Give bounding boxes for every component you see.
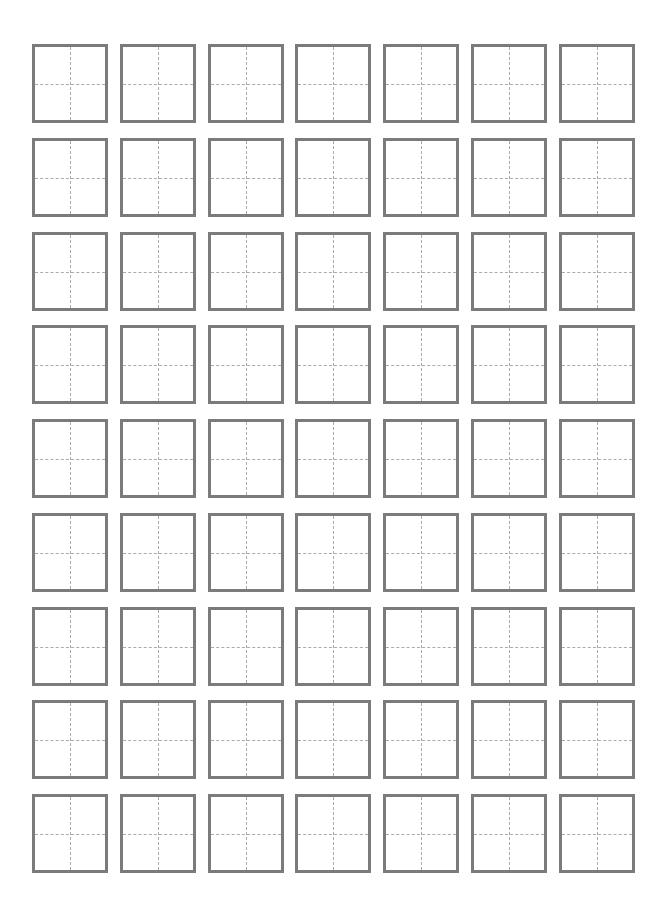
practice-cell [295,232,371,311]
horizontal-guide-line [123,647,193,648]
practice-cell [471,232,547,311]
practice-cell [383,607,459,686]
practice-cell [471,607,547,686]
horizontal-guide-line [474,553,544,554]
horizontal-guide-line [298,553,368,554]
horizontal-guide-line [35,365,105,366]
practice-cell [383,44,459,123]
practice-cell [32,513,108,592]
practice-cell [559,513,635,592]
horizontal-guide-line [562,272,632,273]
horizontal-guide-line [474,647,544,648]
horizontal-guide-line [474,84,544,85]
practice-cell [32,232,108,311]
practice-cell [208,794,284,873]
horizontal-guide-line [123,834,193,835]
horizontal-guide-line [35,553,105,554]
horizontal-guide-line [386,834,456,835]
practice-cell [295,700,371,779]
practice-cell [295,513,371,592]
horizontal-guide-line [298,740,368,741]
practice-sheet [0,0,668,908]
practice-cell [471,419,547,498]
practice-cell [295,325,371,404]
horizontal-guide-line [35,740,105,741]
horizontal-guide-line [562,365,632,366]
practice-cell [32,607,108,686]
horizontal-guide-line [386,365,456,366]
horizontal-guide-line [211,834,281,835]
practice-cell [208,325,284,404]
practice-cell [383,138,459,217]
horizontal-guide-line [35,178,105,179]
horizontal-guide-line [562,84,632,85]
practice-cell [383,513,459,592]
horizontal-guide-line [562,647,632,648]
horizontal-guide-line [211,178,281,179]
practice-cell [120,513,196,592]
practice-cell [559,232,635,311]
practice-cell [383,232,459,311]
practice-cell [120,232,196,311]
horizontal-guide-line [474,834,544,835]
horizontal-guide-line [211,647,281,648]
horizontal-guide-line [474,272,544,273]
practice-cell [120,700,196,779]
practice-cell [559,419,635,498]
horizontal-guide-line [298,84,368,85]
horizontal-guide-line [386,740,456,741]
horizontal-guide-line [386,553,456,554]
practice-cell [208,419,284,498]
practice-cell [295,794,371,873]
practice-cell [120,325,196,404]
horizontal-guide-line [562,834,632,835]
practice-cell [32,419,108,498]
practice-cell [295,607,371,686]
practice-cell [32,794,108,873]
horizontal-guide-line [386,459,456,460]
horizontal-guide-line [386,647,456,648]
horizontal-guide-line [123,365,193,366]
horizontal-guide-line [35,272,105,273]
horizontal-guide-line [298,365,368,366]
horizontal-guide-line [474,178,544,179]
practice-cell [471,794,547,873]
practice-cell [559,700,635,779]
horizontal-guide-line [474,459,544,460]
horizontal-guide-line [123,459,193,460]
horizontal-guide-line [211,272,281,273]
horizontal-guide-line [123,553,193,554]
practice-cell [471,325,547,404]
horizontal-guide-line [35,834,105,835]
horizontal-guide-line [562,459,632,460]
practice-cell [32,700,108,779]
practice-cell [295,44,371,123]
horizontal-guide-line [211,553,281,554]
practice-cell [471,44,547,123]
horizontal-guide-line [123,272,193,273]
practice-cell [471,700,547,779]
horizontal-guide-line [298,647,368,648]
horizontal-guide-line [474,365,544,366]
practice-cell [120,138,196,217]
practice-cell [32,138,108,217]
practice-cell [383,794,459,873]
horizontal-guide-line [298,459,368,460]
practice-cell [559,44,635,123]
practice-cell [471,513,547,592]
practice-cell [559,138,635,217]
practice-cell [120,794,196,873]
horizontal-guide-line [211,459,281,460]
practice-cell [383,325,459,404]
practice-cell [120,44,196,123]
horizontal-guide-line [562,553,632,554]
horizontal-guide-line [211,84,281,85]
horizontal-guide-line [386,272,456,273]
practice-cell [471,138,547,217]
horizontal-guide-line [35,459,105,460]
practice-cell [208,700,284,779]
practice-cell [383,419,459,498]
horizontal-guide-line [474,740,544,741]
horizontal-guide-line [123,740,193,741]
practice-cell [120,607,196,686]
